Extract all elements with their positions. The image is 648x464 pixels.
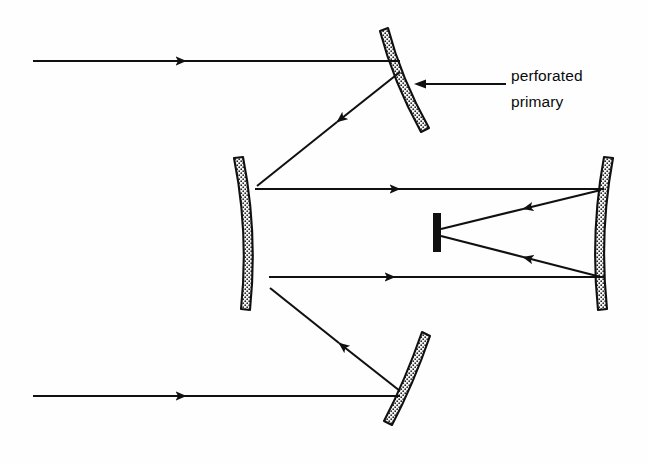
mirror-secondary-left [234,157,253,310]
label-perforated-primary-line1: perforated [511,68,583,84]
ray-tertiary-to-focus-top [523,190,601,209]
ray-tertiary-to-focus-top-tail [441,209,523,229]
ray-tertiary-to-focus-bottom [523,257,601,277]
ray-group [33,61,604,396]
label-leader-arrowhead [414,80,426,89]
ray-tertiary-to-focus-bottom-tail [441,236,523,257]
optical-ray-diagram: perforated primary [0,0,648,464]
mirror-tertiary-right [595,157,613,310]
ray-primary-to-secondary-bottom-tail [270,288,339,343]
mirror-perforated-primary-upper [380,28,429,132]
label-perforated-primary-line2: primary [511,94,563,110]
focal-plane-stop [433,213,441,252]
mirror-perforated-primary-lower [384,332,430,425]
ray-primary-to-secondary-top [337,72,400,122]
ray-primary-to-secondary-top-tail [257,122,337,186]
ray-primary-to-secondary-bottom [339,343,400,391]
